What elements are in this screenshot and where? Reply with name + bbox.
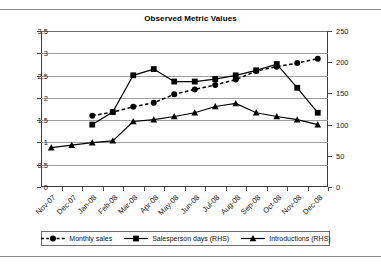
legend-marker-square-icon: [123, 234, 149, 243]
y-axis-right-tick-label: 100: [336, 120, 364, 129]
y-axis-left-tick: [37, 120, 41, 121]
y-axis-right-tick-label: 50: [336, 151, 364, 160]
x-axis-tick: [226, 187, 227, 191]
y-axis-left-tick: [37, 187, 41, 188]
chart-title: Observed Metric Values: [0, 14, 381, 23]
x-axis-tick: [185, 187, 186, 191]
data-point-marker: [294, 85, 300, 91]
data-point-marker: [171, 91, 177, 97]
chart-page: Observed Metric Values Monthly salesSale…: [0, 0, 381, 268]
data-point-marker: [315, 56, 321, 62]
y-axis-right-tick-label: 150: [336, 89, 364, 98]
y-axis-left-tick: [37, 165, 41, 166]
data-point-marker: [315, 110, 321, 116]
y-axis-left-tick: [37, 142, 41, 143]
legend-item-2[interactable]: Salesperson days (RHS): [123, 234, 229, 243]
data-point-marker: [212, 76, 218, 82]
y-axis-right-tick: [328, 93, 332, 94]
series-line: [92, 64, 318, 125]
top-divider: [0, 9, 381, 10]
data-point-marker: [192, 86, 198, 92]
y-axis-right-tick-label: 250: [336, 27, 364, 36]
y-axis-right-tick: [328, 156, 332, 157]
chart-legend: Monthly salesSalesperson days (RHS)Intro…: [41, 231, 330, 246]
y-axis-left-tick-label: 1.5: [22, 116, 48, 125]
y-axis-right-tick: [328, 62, 332, 63]
x-axis-tick: [308, 187, 309, 191]
data-point-marker: [151, 100, 157, 106]
data-point-marker: [274, 61, 280, 67]
x-axis-tick: [123, 187, 124, 191]
x-axis-tick: [164, 187, 165, 191]
legend-label: Introductions (RHS): [269, 235, 330, 242]
data-point-marker: [89, 113, 95, 119]
data-point-marker: [212, 82, 218, 88]
data-point-marker: [171, 79, 177, 85]
data-point-marker: [232, 100, 239, 106]
y-axis-left-tick: [37, 98, 41, 99]
y-axis-left-tick-label: 2: [22, 93, 48, 102]
y-axis-left-tick-label: 0.5: [22, 160, 48, 169]
y-axis-left-tick: [37, 31, 41, 32]
x-axis-tick: [205, 187, 206, 191]
x-axis-tick: [82, 187, 83, 191]
y-axis-right-tick: [328, 31, 332, 32]
data-point-marker: [130, 72, 136, 78]
x-axis-tick: [144, 187, 145, 191]
legend-item-3[interactable]: Introductions (RHS): [240, 234, 330, 243]
x-axis-tick: [267, 187, 268, 191]
y-axis-left-tick-label: 1: [22, 138, 48, 147]
x-axis-tick: [103, 187, 104, 191]
data-point-marker: [253, 109, 260, 115]
y-axis-right-tick-label: 200: [336, 58, 364, 67]
x-axis-tick: [287, 187, 288, 191]
plot-area: [41, 31, 328, 187]
y-axis-left-tick: [37, 76, 41, 77]
data-point-marker: [110, 109, 116, 115]
legend-label: Salesperson days (RHS): [152, 235, 229, 242]
series-layer: [41, 31, 328, 187]
data-point-marker: [50, 236, 56, 242]
legend-item-1[interactable]: Monthly sales: [40, 234, 112, 243]
y-axis-right-tick-label: 0: [336, 183, 364, 192]
legend-marker-circle-icon: [40, 234, 66, 243]
y-axis-left-tick-label: 2.5: [22, 71, 48, 80]
series-3: [48, 100, 321, 150]
data-point-marker: [233, 72, 239, 78]
data-point-marker: [294, 60, 300, 66]
legend-marker-triangle-icon: [240, 234, 266, 243]
y-axis-right-tick: [328, 125, 332, 126]
y-axis-left-tick-label: 3: [22, 49, 48, 58]
y-axis-left-tick-label: 0: [22, 183, 48, 192]
y-axis-left-tick: [37, 53, 41, 54]
data-point-marker: [89, 122, 95, 128]
data-point-marker: [130, 104, 136, 110]
x-axis-tick: [328, 187, 329, 191]
x-axis-tick: [246, 187, 247, 191]
y-axis-left-tick-label: 3.5: [22, 27, 48, 36]
bottom-divider: [0, 256, 381, 257]
data-point-marker: [133, 236, 139, 242]
data-point-marker: [192, 79, 198, 85]
x-axis-tick: [62, 187, 63, 191]
data-point-marker: [253, 67, 259, 73]
legend-label: Monthly sales: [69, 235, 112, 242]
data-point-marker: [151, 66, 157, 72]
